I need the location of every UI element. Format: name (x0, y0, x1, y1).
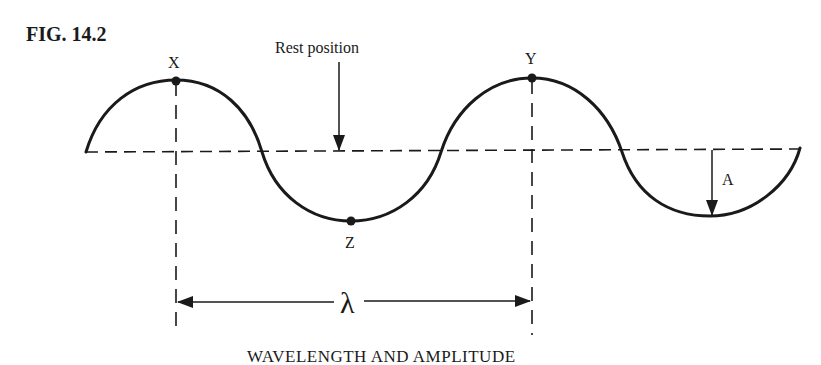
crest-y-point (528, 74, 537, 83)
figure-number: FIG. 14.2 (26, 23, 107, 45)
trough-z-label: Z (345, 234, 355, 251)
figure-caption: WAVELENGTH AND AMPLITUDE (247, 347, 516, 365)
crest-x-point (172, 77, 181, 86)
amplitude-label: A (722, 171, 734, 188)
crest-x-label: X (168, 54, 180, 71)
trough-z-point (347, 217, 356, 226)
wave-curve (86, 78, 800, 221)
wavelength-label: λ (340, 286, 355, 319)
crest-y-label: Y (525, 50, 537, 67)
rest-position-label: Rest position (275, 39, 359, 57)
wave-diagram: FIG. 14.2 X Y Z Rest position A λ WAVELE… (0, 0, 821, 365)
